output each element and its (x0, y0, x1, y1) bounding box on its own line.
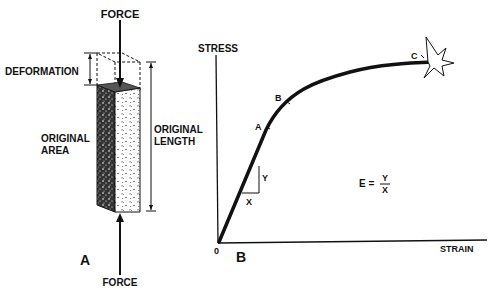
panel-b: STRESS STRAIN 0 B Y X A B C E = Y X (198, 37, 487, 265)
point-b-label: B (275, 93, 282, 103)
x-axis (218, 240, 487, 243)
original-length-line1: ORIGINAL (154, 124, 203, 135)
panel-a: FORCE FORCE DEFORMATION ORIGINAL LENGTH … (5, 8, 203, 288)
y-axis (216, 55, 218, 243)
origin-label: 0 (214, 246, 219, 256)
stress-strain-curve (219, 62, 436, 242)
original-area-line2: AREA (41, 145, 69, 156)
x-axis-label: STRAIN (440, 244, 474, 254)
slope-x-label: X (246, 197, 252, 207)
original-area-line1: ORIGINAL (41, 133, 90, 144)
panel-a-label: A (80, 252, 90, 268)
specimen-side (97, 85, 115, 212)
force-label-bottom: FORCE (103, 277, 138, 288)
point-c-label: C (411, 51, 418, 61)
y-axis-label: STRESS (198, 43, 238, 54)
deformation-label: DEFORMATION (5, 66, 79, 77)
force-label-top: FORCE (101, 8, 140, 20)
formula-denominator: X (382, 185, 388, 195)
point-a-label: A (255, 122, 262, 132)
original-length-line2: LENGTH (154, 136, 195, 147)
fracture-star-icon (424, 37, 454, 78)
formula-lhs: E = (359, 178, 374, 189)
stress-strain-diagram: FORCE FORCE DEFORMATION ORIGINAL LENGTH … (0, 0, 491, 291)
panel-b-label: B (236, 249, 246, 265)
slope-y-label: Y (262, 173, 268, 183)
formula-numerator: Y (382, 173, 388, 183)
specimen-front (115, 88, 140, 212)
